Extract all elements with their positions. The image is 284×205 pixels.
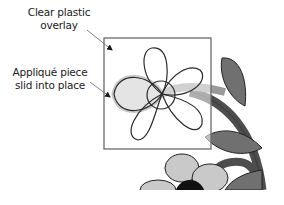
bottom-flower-petal <box>140 180 176 200</box>
lower-leaf <box>225 170 262 190</box>
middle-leaf <box>205 131 262 154</box>
upper-leaf <box>221 58 245 106</box>
applique-diagram <box>0 0 284 205</box>
